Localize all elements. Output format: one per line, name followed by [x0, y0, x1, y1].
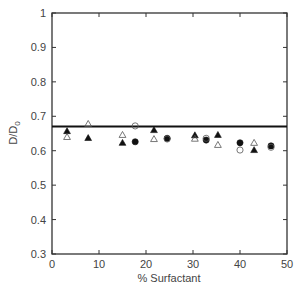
y-tick-label: 0.6: [31, 145, 46, 157]
open-triangle-point: [151, 136, 158, 142]
filled-triangle-point: [85, 135, 92, 141]
open-triangle-point: [85, 120, 92, 126]
chart: 010203040500.30.40.50.60.70.80.91 % Surf…: [0, 0, 305, 296]
open-triangle-point: [64, 134, 71, 140]
x-tick-label: 30: [187, 258, 199, 270]
x-tick-label: 50: [281, 258, 293, 270]
filled-triangle-point: [251, 147, 258, 153]
x-axis-label: % Surfactant: [138, 272, 201, 284]
filled-circle-point: [237, 140, 243, 146]
series-filled-triangle: [64, 127, 258, 153]
x-tick-label: 40: [234, 258, 246, 270]
y-tick-label: 0.9: [31, 41, 46, 53]
y-tick-label: 0.3: [31, 248, 46, 260]
y-axis-label-main: D/D: [7, 126, 19, 145]
filled-circle-point: [268, 143, 274, 149]
x-tick-label: 10: [93, 258, 105, 270]
x-tick-label: 20: [140, 258, 152, 270]
filled-triangle-point: [119, 139, 126, 145]
open-triangle-point: [251, 139, 258, 145]
y-tick-label: 0.4: [31, 214, 46, 226]
y-tick-label: 0.8: [31, 76, 46, 88]
open-circle-point: [237, 147, 243, 153]
data-points: [64, 120, 274, 153]
axis-ticks: [52, 13, 287, 254]
series-open-triangle: [64, 120, 258, 147]
y-axis-label: D/D0: [7, 121, 22, 145]
open-triangle-point: [215, 141, 222, 147]
plot-frame: [52, 13, 287, 254]
x-tick-label: 0: [49, 258, 55, 270]
y-axis-label-subscript: 0: [13, 121, 22, 126]
y-tick-label: 0.5: [31, 179, 46, 191]
filled-circle-point: [132, 139, 138, 145]
plot-border: [52, 13, 287, 254]
y-tick-label: 0.7: [31, 110, 46, 122]
open-triangle-point: [119, 131, 126, 137]
filled-triangle-point: [215, 131, 222, 137]
y-tick-label: 1: [40, 7, 46, 19]
